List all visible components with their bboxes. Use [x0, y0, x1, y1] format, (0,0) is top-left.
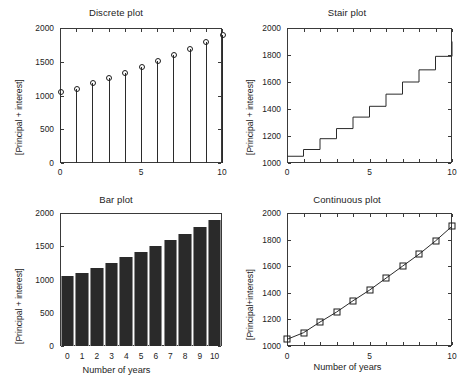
stem-line	[206, 42, 207, 163]
stem-line	[222, 35, 223, 163]
x-tick-label: 4	[124, 351, 129, 361]
data-point-marker	[350, 297, 357, 304]
x-tick-label: 3	[109, 351, 114, 361]
data-point-marker	[383, 275, 390, 282]
stem-marker	[220, 32, 226, 38]
y-tick-mark	[218, 96, 221, 97]
x-tick-label: 7	[168, 351, 173, 361]
stem-marker	[203, 39, 209, 45]
stem-line	[92, 83, 93, 163]
stem-line	[157, 61, 158, 163]
bar	[208, 220, 222, 346]
data-point-marker	[300, 329, 307, 336]
x-tick-mark	[125, 29, 126, 32]
x-tick-label: 10	[217, 167, 226, 177]
bar	[90, 268, 104, 346]
bar	[178, 234, 192, 346]
data-point-marker	[366, 287, 373, 294]
y-tick-label: 1500	[0, 57, 54, 67]
x-tick-mark	[60, 29, 61, 32]
y-tick-label: 2000	[0, 208, 54, 218]
bar-plot-title: Bar plot	[0, 194, 232, 205]
stem-marker	[187, 46, 193, 52]
y-tick-mark	[218, 346, 221, 347]
y-tick-mark	[218, 62, 221, 63]
panel-discrete-plot: Discrete plot [Principal + interest] 050…	[0, 0, 232, 191]
bar	[105, 263, 119, 346]
stem-marker	[58, 89, 64, 95]
bar	[134, 252, 148, 346]
y-tick-label: 2000	[0, 23, 54, 33]
y-tick-mark	[61, 213, 64, 214]
panel-continuous-plot: Continuous plot [Principal+interest] 100…	[231, 188, 463, 382]
bar	[149, 246, 163, 346]
y-tick-label: 0	[0, 158, 54, 168]
x-tick-label: 0	[58, 167, 63, 177]
panel-stair-plot: Stair plot [Principal + interest] 100012…	[231, 0, 463, 191]
stem-line	[173, 55, 174, 163]
stem-marker	[171, 52, 177, 58]
y-tick-label: 0	[0, 341, 54, 351]
stem-marker	[155, 58, 161, 64]
y-tick-mark	[61, 346, 64, 347]
stem-line	[60, 92, 61, 163]
x-tick-label: 2	[94, 351, 99, 361]
x-tick-label: 1	[80, 351, 85, 361]
data-point-marker	[432, 237, 439, 244]
stem-line	[125, 73, 126, 163]
x-tick-mark	[141, 29, 142, 32]
bar	[75, 273, 89, 346]
y-tick-mark	[61, 62, 64, 63]
y-tick-label: 500	[0, 308, 54, 318]
x-tick-label: 5	[139, 167, 144, 177]
y-tick-mark	[61, 96, 64, 97]
x-tick-mark	[157, 29, 158, 32]
x-tick-mark	[206, 29, 207, 32]
data-point-marker	[416, 251, 423, 258]
x-tick-mark	[92, 29, 93, 32]
y-tick-label: 1000	[0, 275, 54, 285]
data-point-marker	[284, 336, 291, 343]
x-tick-label: 6	[153, 351, 158, 361]
x-tick-label: 9	[198, 351, 203, 361]
bar	[164, 240, 178, 346]
x-tick-label: 10	[210, 351, 219, 361]
stem-marker	[74, 86, 80, 92]
y-tick-mark	[61, 163, 64, 164]
figure-canvas: Discrete plot [Principal + interest] 050…	[0, 0, 463, 382]
data-point-marker	[399, 263, 406, 270]
y-tick-mark	[218, 213, 221, 214]
data-point-marker	[317, 319, 324, 326]
y-tick-label: 1500	[0, 241, 54, 251]
x-tick-label: 0	[65, 351, 70, 361]
x-tick-mark	[76, 29, 77, 32]
stem-line	[141, 67, 142, 163]
stem-marker	[90, 80, 96, 86]
stem-marker	[122, 70, 128, 76]
y-tick-mark	[61, 129, 64, 130]
bar-plot-xlabel: Number of years	[14, 365, 219, 375]
y-tick-mark	[61, 246, 64, 247]
stem-line	[109, 78, 110, 163]
y-tick-mark	[218, 129, 221, 130]
x-tick-mark	[109, 29, 110, 32]
y-tick-mark	[218, 28, 221, 29]
stem-line	[76, 89, 77, 163]
stem-marker	[106, 75, 112, 81]
y-tick-mark	[218, 163, 221, 164]
x-tick-label: 8	[183, 351, 188, 361]
continuous-line-path	[287, 226, 452, 339]
continuous-plot-line	[231, 188, 463, 382]
stair-step-path	[287, 42, 452, 157]
bar	[193, 227, 207, 346]
x-tick-mark	[190, 29, 191, 32]
y-tick-label: 1000	[0, 91, 54, 101]
data-point-marker	[449, 223, 456, 230]
discrete-plot-title: Discrete plot	[0, 7, 232, 18]
bar	[61, 276, 75, 346]
y-tick-mark	[61, 28, 64, 29]
continuous-plot-xlabel: Number of years	[245, 362, 450, 372]
data-point-marker	[333, 309, 340, 316]
x-tick-mark	[173, 29, 174, 32]
x-tick-label: 5	[139, 351, 144, 361]
